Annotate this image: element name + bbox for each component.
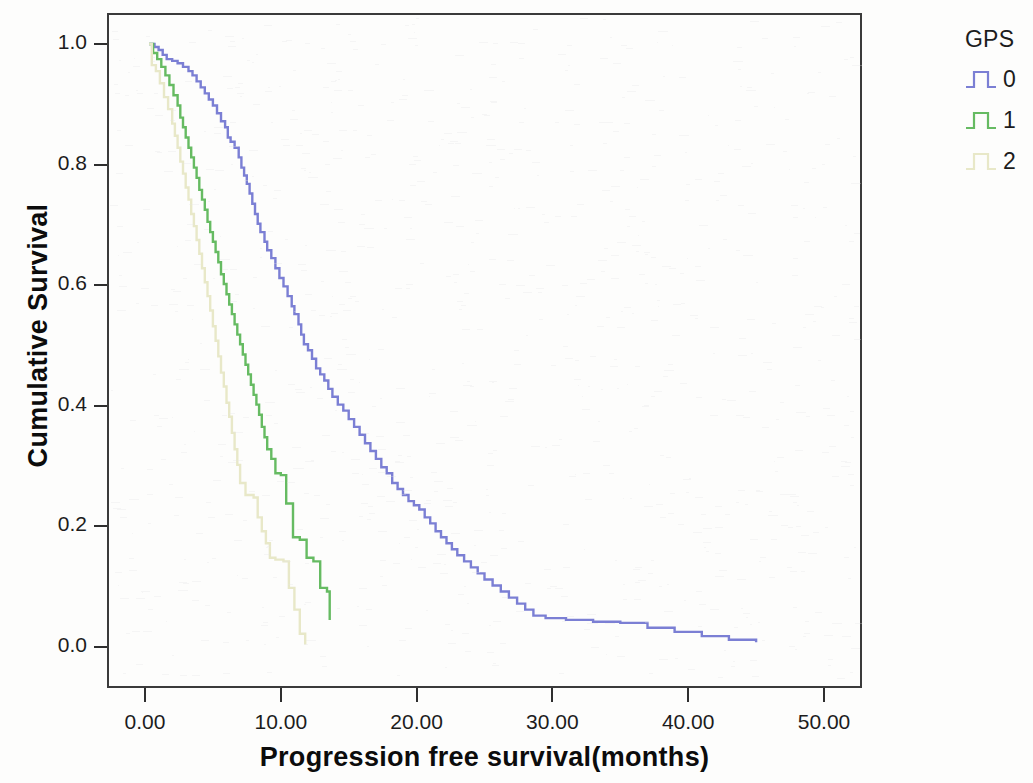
survival-curves (109, 15, 860, 686)
x-tick-label: 0.00 (90, 710, 200, 734)
legend-entries: 012 (965, 59, 1033, 182)
y-tick-mark (94, 43, 107, 45)
x-tick-mark (280, 688, 282, 702)
legend-step-icon (965, 67, 997, 93)
y-tick-label: 1.0 (0, 30, 87, 54)
legend-step-icon (965, 108, 997, 134)
legend-label: 2 (1003, 148, 1016, 175)
x-tick-label: 20.00 (362, 710, 472, 734)
x-tick-mark (551, 688, 553, 702)
x-tick-label: 10.00 (226, 710, 336, 734)
y-tick-mark (94, 284, 107, 286)
x-tick-mark (144, 688, 146, 702)
legend-label: 1 (1003, 107, 1016, 134)
x-tick-label: 30.00 (497, 710, 607, 734)
survival-chart-page: 1.00.80.60.40.20.0 0.0010.0020.0030.0040… (0, 0, 1033, 783)
survival-curve-group-1 (149, 44, 330, 620)
x-axis-title: Progression free survival(months) (107, 742, 862, 773)
y-tick-mark (94, 164, 107, 166)
legend-title: GPS (965, 26, 1033, 53)
x-tick-mark (687, 688, 689, 702)
x-tick-label: 40.00 (633, 710, 743, 734)
y-tick-mark (94, 646, 107, 648)
x-tick-label: 50.00 (769, 710, 879, 734)
legend-label: 0 (1003, 66, 1016, 93)
y-tick-label: 0.0 (0, 633, 87, 657)
y-tick-mark (94, 405, 107, 407)
plot-area (107, 13, 862, 688)
y-tick-mark (94, 525, 107, 527)
legend-entry-0[interactable]: 0 (965, 59, 1033, 100)
legend-step-icon (965, 149, 997, 175)
x-tick-mark (416, 688, 418, 702)
legend-entry-2[interactable]: 2 (965, 141, 1033, 182)
legend-entry-1[interactable]: 1 (965, 100, 1033, 141)
y-axis-title: Cumulative Survival (23, 76, 54, 596)
x-tick-mark (823, 688, 825, 702)
legend: GPS 012 (965, 26, 1033, 182)
